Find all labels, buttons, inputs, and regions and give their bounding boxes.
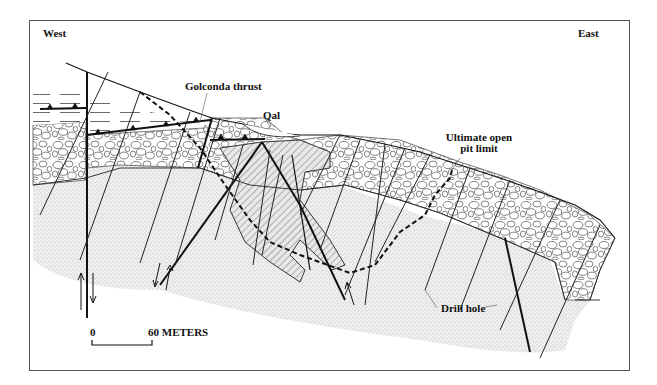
cross-section-drawing	[0, 0, 657, 385]
drill-hole-label: Drill hole	[441, 303, 485, 314]
west-label: West	[43, 28, 66, 39]
east-label: East	[578, 28, 599, 39]
ultimate-pit-label: Ultimate open pit limit	[434, 132, 524, 154]
scale-bar	[92, 340, 152, 345]
ultimate-pit-label-line2: pit limit	[434, 143, 524, 154]
qal-label: Qal	[263, 110, 280, 121]
golconda-thrust-label: Golconda thrust	[185, 81, 262, 92]
scale-end-label: 60 METERS	[148, 327, 208, 338]
scale-start-label: 0	[90, 327, 96, 338]
